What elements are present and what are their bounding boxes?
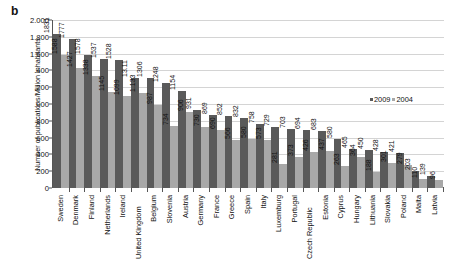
bar-value-label: 729 bbox=[263, 114, 270, 126]
x-axis-category-label: Italy bbox=[260, 195, 268, 209]
x-label-slot: Germany bbox=[193, 193, 209, 261]
bar-value-label: 110 bbox=[412, 167, 419, 178]
x-label-slot: Greece bbox=[225, 193, 241, 261]
x-label-slot: Belgium bbox=[147, 193, 163, 261]
x-axis-category-label: Estonia bbox=[322, 195, 330, 220]
x-axis-category-label: Greece bbox=[228, 195, 236, 219]
bar-value-label: 301 bbox=[380, 150, 387, 162]
y-tick-label: 1.600 bbox=[30, 49, 49, 58]
bar-group: 580263 bbox=[334, 20, 350, 188]
x-axis-category-label: Luxemburg bbox=[275, 195, 283, 232]
bar: 1588 bbox=[61, 55, 69, 188]
bar-groups: 1831158817771427157813381537114515281099… bbox=[52, 20, 444, 188]
bar: 987 bbox=[154, 105, 162, 188]
bar-group: 18311588 bbox=[53, 20, 69, 188]
bar-value-label: 690 bbox=[209, 117, 216, 129]
bar-value-label: 734 bbox=[162, 114, 169, 126]
bar-group: 852566 bbox=[225, 20, 241, 188]
x-axis-category-label: Belgium bbox=[150, 195, 158, 222]
bar: 734 bbox=[170, 126, 178, 188]
bar: 373 bbox=[295, 157, 303, 188]
legend-label: 2004 bbox=[396, 95, 412, 104]
x-axis-category-label: France bbox=[213, 195, 221, 218]
x-axis-category-label: United Kingdom bbox=[135, 195, 143, 259]
bar-value-label: 730 bbox=[193, 114, 200, 126]
bar-value-label: 1.133 bbox=[128, 74, 135, 92]
x-label-slot: Estonia bbox=[318, 193, 334, 261]
x-axis-category-label: Sweden bbox=[57, 195, 65, 222]
bar-value-label: 869 bbox=[201, 102, 208, 114]
y-tick-label: .000 bbox=[34, 100, 49, 109]
bar-group: 428301 bbox=[380, 20, 396, 188]
bar-value-label: 96 bbox=[429, 171, 436, 179]
legend-item: 2009 bbox=[370, 95, 390, 104]
legend-label: 2009 bbox=[374, 95, 390, 104]
bar-value-label: 1528 bbox=[106, 43, 113, 59]
bar: 703 bbox=[287, 129, 295, 188]
bar: 1578 bbox=[84, 55, 92, 188]
bar: 1248 bbox=[162, 83, 170, 188]
x-label-slot: Hungary bbox=[349, 193, 365, 261]
x-axis-category-label: Hungary bbox=[353, 195, 361, 223]
x-tick-mark bbox=[443, 188, 444, 192]
x-label-slot: Italy bbox=[256, 193, 272, 261]
bar-value-label: 580 bbox=[240, 127, 247, 139]
x-axis-category-label: Slovenia bbox=[166, 195, 174, 223]
legend-swatch bbox=[370, 98, 373, 101]
bar-group: 1306987 bbox=[147, 20, 163, 188]
bar: 566 bbox=[232, 140, 240, 188]
bar-value-label: 1154 bbox=[168, 75, 175, 90]
x-axis-category-label: Ireland bbox=[119, 195, 127, 218]
bar: 1.133 bbox=[139, 93, 147, 188]
bar-group: 13996 bbox=[427, 20, 443, 188]
bar-value-label: 1578 bbox=[75, 39, 82, 55]
x-axis-category-label: Austria bbox=[182, 195, 190, 218]
bar: 573 bbox=[264, 140, 272, 188]
bar-value-label: 580 bbox=[326, 127, 333, 139]
bar-value-label: 279 bbox=[396, 152, 403, 164]
x-axis-category-label: Portugal bbox=[291, 195, 299, 223]
y-tick-label: 600 bbox=[36, 133, 49, 142]
y-tick-label: .400 bbox=[34, 66, 49, 75]
bar-value-label: 373 bbox=[287, 144, 294, 156]
x-axis-category-label: Netherlands bbox=[104, 195, 112, 235]
x-axis-category-label: Malta bbox=[416, 195, 424, 213]
bar: 281 bbox=[279, 164, 287, 188]
x-axis-category-label: Cyprus bbox=[338, 195, 346, 218]
bar: 110 bbox=[419, 179, 427, 188]
bar-group: 832580 bbox=[240, 20, 256, 188]
y-tick-label: 0 bbox=[45, 184, 49, 193]
bar-group: 15281099 bbox=[115, 20, 131, 188]
bar: 188 bbox=[373, 172, 381, 188]
bar-value-label: 758 bbox=[248, 112, 255, 124]
bar-value-label: 1777 bbox=[59, 22, 66, 38]
bar-value-label: 421 bbox=[388, 140, 395, 152]
x-label-slot: Latvia bbox=[427, 193, 443, 261]
bar: 426 bbox=[310, 152, 318, 188]
bar-group: 758573 bbox=[256, 20, 272, 188]
bar-value-label: 139 bbox=[419, 164, 426, 176]
bar-value-label: 1338 bbox=[82, 59, 89, 75]
bar-value-label: 281 bbox=[271, 152, 278, 164]
bar: 96 bbox=[435, 180, 443, 188]
x-label-slot: Slovenia bbox=[162, 193, 178, 261]
bar-value-label: 703 bbox=[279, 116, 286, 128]
bar: 1099 bbox=[123, 96, 131, 188]
legend-item: 2004 bbox=[392, 95, 412, 104]
x-axis-category-label: Denmark bbox=[73, 195, 81, 225]
bar: 301 bbox=[388, 163, 396, 188]
x-label-slot: Slovakia bbox=[380, 193, 396, 261]
bar-group: 465364 bbox=[349, 20, 365, 188]
bar: 13.11 bbox=[131, 78, 139, 188]
bar: 580 bbox=[248, 139, 256, 188]
bar-value-label: 1537 bbox=[90, 42, 97, 58]
bar-group: 683437 bbox=[318, 20, 334, 188]
x-axis-category-label: Finland bbox=[88, 195, 96, 219]
bar-group: 1248734 bbox=[162, 20, 178, 188]
bar-value-label: 1145 bbox=[98, 76, 105, 91]
bar-value-label: 573 bbox=[255, 127, 262, 139]
x-label-slot: France bbox=[209, 193, 225, 261]
bar-value-label: 832 bbox=[232, 105, 239, 117]
bar: 730 bbox=[201, 127, 209, 188]
bar-value-label: 1306 bbox=[137, 62, 144, 78]
